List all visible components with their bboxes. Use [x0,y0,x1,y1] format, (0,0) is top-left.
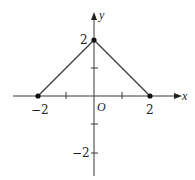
x-axis-arrow-icon [174,93,182,99]
origin-label: O [97,100,106,114]
coordinate-plot: y x O −2 2 2 −2 [0,0,195,180]
y-axis-label: y [98,8,105,22]
y-label-pos2: 2 [80,33,88,47]
point-neg2-0 [35,93,40,98]
x-label-pos2: 2 [146,103,154,117]
point-2-0 [147,93,152,98]
x-axis-label: x [181,89,188,103]
x-label-neg2: −2 [31,103,49,117]
y-label-neg2: −2 [72,146,90,160]
y-axis-arrow-icon [91,12,97,20]
point-0-2 [91,37,96,42]
segment-right [94,40,150,96]
segment-left [38,40,94,96]
y-axis [91,12,97,176]
